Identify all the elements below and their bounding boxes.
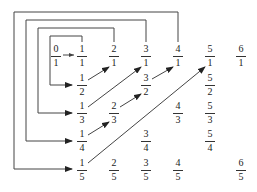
diag-3-2-to-4-1: [152, 67, 173, 79]
fraction-4-1: 41: [171, 44, 185, 68]
numerator: 1: [75, 73, 89, 83]
numerator: 1: [75, 101, 89, 111]
denominator: 5: [171, 172, 185, 182]
numerator: 3: [139, 44, 153, 54]
numerator: 6: [234, 158, 248, 168]
denominator: 1: [75, 58, 89, 68]
denominator: 1: [49, 58, 63, 68]
denominator: 1: [107, 58, 121, 68]
denominator: 1: [234, 58, 248, 68]
denominator: 5: [75, 172, 89, 182]
path-layer: [0, 0, 257, 192]
denominator: 5: [139, 172, 153, 182]
fraction-3-2: 32: [139, 73, 153, 97]
denominator: 1: [139, 58, 153, 68]
denominator: 5: [234, 172, 248, 182]
numerator: 3: [139, 129, 153, 139]
numerator: 1: [75, 129, 89, 139]
numerator: 2: [107, 101, 121, 111]
numerator: 4: [171, 44, 185, 54]
numerator: 3: [139, 158, 153, 168]
denominator: 2: [203, 87, 217, 97]
fraction-1-4: 14: [75, 129, 89, 153]
fraction-4-3: 43: [171, 101, 185, 125]
fraction-1-5: 15: [75, 158, 89, 182]
denominator: 4: [139, 143, 153, 153]
fraction-5-1: 51: [203, 44, 217, 68]
numerator: 6: [234, 44, 248, 54]
denominator: 4: [75, 143, 89, 153]
fraction-5-4: 54: [203, 129, 217, 153]
fraction-1-3: 13: [75, 101, 89, 125]
denominator: 3: [171, 115, 185, 125]
denominator: 4: [203, 143, 217, 153]
fraction-2-5: 25: [107, 158, 121, 182]
denominator: 2: [75, 87, 89, 97]
diag-1-2-to-2-1: [88, 67, 109, 80]
fraction-1-2: 12: [75, 73, 89, 97]
diag-1-4-to-2-3: [88, 122, 109, 135]
fraction-6-5: 65: [234, 158, 248, 182]
fraction-5-3: 53: [203, 101, 217, 125]
numerator: 5: [203, 101, 217, 111]
fraction-6-1: 61: [234, 44, 248, 68]
fraction-4-5: 45: [171, 158, 185, 182]
numerator: 5: [203, 129, 217, 139]
fraction-2-1: 21: [107, 44, 121, 68]
denominator: 1: [171, 58, 185, 68]
numerator: 5: [203, 73, 217, 83]
numerator: 3: [139, 73, 153, 83]
denominator: 5: [107, 172, 121, 182]
numerator: 4: [171, 158, 185, 168]
numerator: 2: [107, 44, 121, 54]
denominator: 3: [107, 115, 121, 125]
numerator: 1: [75, 158, 89, 168]
loop-4-1-to-1-5: [14, 12, 178, 169]
numerator: 2: [107, 158, 121, 168]
denominator: 3: [75, 115, 89, 125]
numerator: 4: [171, 101, 185, 111]
numerator: 0: [49, 44, 63, 54]
numerator: 1: [75, 44, 89, 54]
denominator: 3: [203, 115, 217, 125]
fraction-2-3: 23: [107, 101, 121, 125]
fraction-1-1: 11: [75, 44, 89, 68]
fraction-3-5: 35: [139, 158, 153, 182]
diag-2-3-to-3-2: [120, 94, 141, 107]
fraction-5-2: 52: [203, 73, 217, 97]
numerator: 5: [203, 44, 217, 54]
denominator: 2: [139, 87, 153, 97]
fraction-0-1: 01: [49, 44, 63, 68]
fraction-3-1: 31: [139, 44, 153, 68]
fraction-3-4: 34: [139, 129, 153, 153]
denominator: 1: [203, 58, 217, 68]
